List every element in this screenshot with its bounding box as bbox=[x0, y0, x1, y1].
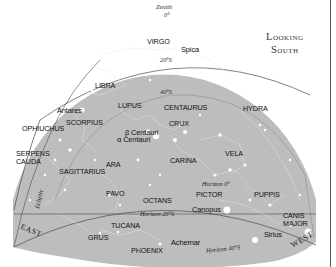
zenith-label: Zenith bbox=[156, 4, 172, 10]
title-line-2: South bbox=[266, 43, 304, 56]
constellation-label: VELA bbox=[225, 150, 243, 157]
constellation-label: MAJOR bbox=[283, 220, 308, 227]
constellation-label: TUCANA bbox=[111, 222, 140, 229]
constellation-label: HYDRA bbox=[243, 105, 268, 112]
title-line-1: Looking bbox=[266, 30, 304, 43]
constellation-label: PAVO bbox=[106, 190, 125, 197]
star-label: Canopus bbox=[192, 206, 221, 213]
constellation-label: LUPUS bbox=[118, 102, 141, 109]
constellation-label: VIRGO bbox=[147, 38, 170, 45]
chart-title: Looking South bbox=[266, 30, 304, 56]
star-label: Sirius bbox=[264, 231, 282, 238]
constellation-label: CAUDA bbox=[16, 158, 41, 165]
star-label: Antares bbox=[57, 107, 82, 114]
zenith-value: 0° bbox=[164, 12, 170, 18]
star-label: α Centauri bbox=[117, 136, 150, 143]
constellation-label: CARINA bbox=[170, 157, 197, 164]
constellation-label: LIBRA bbox=[95, 82, 115, 89]
page-edge-divider bbox=[330, 0, 331, 267]
declination-40-label: 40°S bbox=[160, 89, 172, 95]
constellation-label: GRUS bbox=[88, 234, 108, 241]
star-label: Achernar bbox=[171, 239, 200, 246]
horizon-20-label: Horizon 20°S bbox=[140, 211, 174, 217]
constellation-label: CENTAURUS bbox=[164, 104, 207, 111]
constellation-label: SAGITTARIUS bbox=[59, 168, 105, 175]
constellation-label: ARA bbox=[106, 161, 120, 168]
horizon-0-label: Horizon 0° bbox=[202, 181, 230, 187]
constellation-label: PHOENIX bbox=[131, 247, 163, 254]
constellation-label: OCTANS bbox=[143, 197, 172, 204]
star-label: Spica bbox=[181, 46, 199, 53]
constellation-label: CRUX bbox=[169, 120, 189, 127]
declination-20-label: 20°S bbox=[160, 57, 172, 63]
constellation-label: SCORPIUS bbox=[66, 119, 103, 126]
constellation-label: PICTOR bbox=[196, 191, 222, 198]
constellation-label: PUPPIS bbox=[254, 191, 280, 198]
constellation-label: OPHIUCHUS bbox=[22, 125, 64, 132]
